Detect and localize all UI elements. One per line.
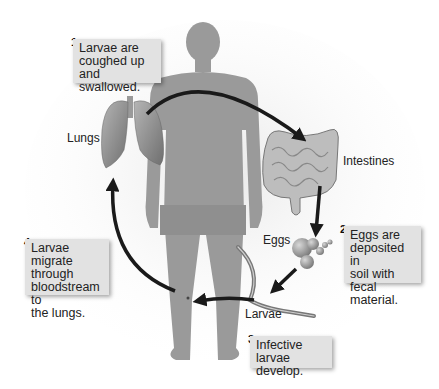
life-cycle-diagram [0,0,439,389]
step-4-callout: Larvae migrate through bloodstream to th… [25,239,109,295]
step-1-callout: Larvae are coughed up and swallowed. [73,39,161,83]
entry-point-dot [187,297,190,300]
step-3-line: Infective larvae [256,339,326,365]
label-intestines: Intestines [343,154,394,168]
step-2-line: deposited in [350,242,415,268]
step-3-line: develop. [256,365,326,378]
step-2-line: soil with fecal [350,268,415,294]
label-larvae: Larvae [245,307,282,321]
step-1-line: coughed up and [79,55,155,81]
step-4-line: the lungs. [31,307,103,320]
step-3-callout: Infective larvae develop. [250,336,332,368]
label-eggs: Eggs [263,233,290,247]
label-lungs: Lungs [67,131,100,145]
step-4-line: bloodstream to [31,281,103,307]
step-1-line: swallowed. [79,81,155,94]
step-2-line: material. [350,294,415,307]
step-2-callout: Eggs are deposited in soil with fecal ma… [344,226,421,283]
step-4-line: Larvae migrate [31,242,103,268]
